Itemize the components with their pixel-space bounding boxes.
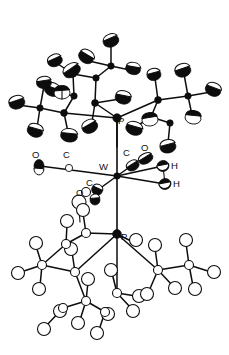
label-o-lower: O bbox=[76, 187, 83, 198]
bond-w-h-lower bbox=[117, 176, 165, 184]
ellipsoid-atom bbox=[124, 61, 141, 77]
label-p-top: P bbox=[118, 115, 124, 126]
top-bond-network bbox=[18, 44, 211, 147]
ellipsoid-atom bbox=[114, 89, 133, 106]
label-h-lower: H bbox=[173, 178, 180, 189]
tungsten-atom bbox=[114, 173, 120, 179]
tungsten-center-group bbox=[34, 118, 172, 234]
label-c-left: C bbox=[63, 149, 70, 160]
ellipsoid-atom bbox=[102, 32, 121, 49]
ellipsoid-atom bbox=[141, 112, 158, 127]
label-o-upper: O bbox=[141, 142, 148, 153]
ellipsoid-atom bbox=[184, 109, 202, 125]
ellipsoid-atom bbox=[8, 94, 27, 111]
label-h-upper: H bbox=[171, 160, 178, 171]
ellipsoid-atom bbox=[54, 86, 70, 99]
label-p-bottom: P bbox=[121, 231, 127, 242]
bottom-open-atoms bbox=[12, 204, 221, 340]
ellipsoid-atom bbox=[124, 119, 144, 137]
ellipsoid-atom bbox=[146, 67, 162, 81]
ellipsoid-atom bbox=[25, 121, 44, 139]
label-c-lower: C bbox=[86, 177, 93, 188]
ellipsoid-atom bbox=[203, 80, 223, 99]
ortep-figure: P O C W C O H H C O P bbox=[0, 0, 229, 355]
label-c-upper: C bbox=[123, 147, 130, 158]
bottom-phosphine-group bbox=[12, 204, 221, 340]
top-ellipsoid-atoms bbox=[8, 32, 224, 154]
ellipsoid-atom bbox=[60, 127, 79, 143]
label-w-center: W bbox=[99, 161, 108, 172]
ellipsoid-atom bbox=[174, 62, 193, 79]
ellipsoid-atom bbox=[76, 46, 97, 66]
atom-label-layer: P O C W C O H H C O P bbox=[32, 115, 180, 242]
label-o-left: O bbox=[32, 149, 39, 160]
ellipsoid-atom bbox=[159, 138, 177, 154]
ellipsoid-atom bbox=[80, 117, 100, 136]
ellipsoid-atom bbox=[61, 60, 83, 81]
structure-canvas: P O C W C O H H C O P bbox=[0, 0, 229, 355]
top-phosphine-group bbox=[8, 32, 224, 154]
